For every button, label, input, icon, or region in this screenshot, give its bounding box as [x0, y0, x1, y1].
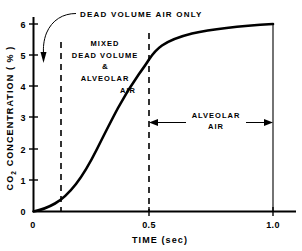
y-tick-labels: 6 5 4 3 2 1 0	[21, 20, 26, 217]
y-tick-label-2: 2	[21, 145, 26, 155]
dead-volume-leader-curved-arrow	[43, 14, 76, 54]
mixed-label-line-4: ALVEOLAR	[81, 74, 130, 83]
y-axis-title-main: CONCENTRATION	[5, 74, 15, 167]
mixed-region-annotation: MIXED DEAD VOLUME & ALVEOLAR AIR	[72, 39, 138, 95]
x-tick-label-1-0: 1.0	[266, 220, 280, 230]
y-tick-label-1: 1	[21, 176, 26, 186]
y-tick-label-6: 6	[21, 20, 26, 30]
y-tick-label-3: 3	[21, 113, 26, 123]
mixed-label-line-1: MIXED	[91, 39, 120, 48]
x-axis-title: TIME (sec)	[132, 235, 188, 245]
y-axis-title-units: ( % )	[5, 46, 15, 71]
y-axis-title-prefix: CO	[5, 175, 15, 191]
svg-text:CO2 CONCENTRATION ( % ): CO2 CONCENTRATION ( % )	[5, 46, 17, 191]
alveolar-air-span-label-line-2: AIR	[208, 122, 224, 131]
alveolar-span-arrowhead-right-icon	[264, 119, 273, 126]
y-tick-label-5: 5	[21, 51, 26, 61]
alveolar-air-span-label-line-1: ALVEOLAR	[192, 111, 241, 120]
y-tick-label-4: 4	[21, 82, 26, 92]
mixed-label-line-5: AIR	[120, 86, 136, 95]
axes-group	[33, 17, 296, 212]
y-tick-label-0: 0	[21, 207, 26, 217]
dead-volume-arrowhead-icon	[41, 52, 47, 63]
dead-volume-air-only-label: DEAD VOLUME AIR ONLY	[80, 10, 203, 19]
alveolar-air-span-annotation: ALVEOLAR AIR	[149, 110, 273, 131]
chart-canvas: 6 5 4 3 2 1 0 0 0.5 1.0 TIME (sec) CO2 C…	[0, 0, 302, 251]
x-tick-label-0: 0	[30, 220, 35, 230]
mixed-label-ampersand: &	[102, 62, 108, 71]
x-tick-label-0-5: 0.5	[142, 220, 156, 230]
alveolar-span-arrowhead-left-icon	[149, 119, 158, 126]
co2-expirogram-figure: 6 5 4 3 2 1 0 0 0.5 1.0 TIME (sec) CO2 C…	[0, 0, 302, 251]
mixed-label-line-2: DEAD VOLUME	[72, 51, 138, 60]
x-tick-labels: 0 0.5 1.0	[30, 220, 280, 230]
y-axis-title: CO2 CONCENTRATION ( % )	[5, 46, 17, 191]
